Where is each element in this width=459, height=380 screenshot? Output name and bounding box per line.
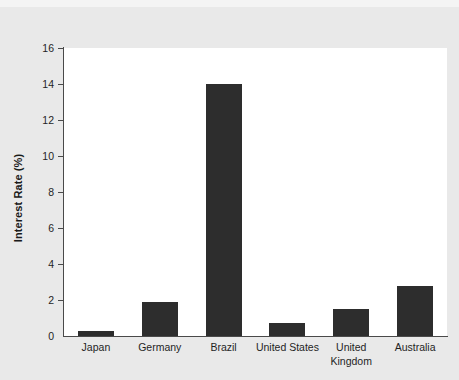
bar: [78, 331, 114, 336]
bar: [142, 302, 178, 336]
y-axis-tick: [58, 264, 64, 265]
x-axis-tick-label: Germany: [128, 341, 192, 355]
y-axis-tick-label: 8: [4, 186, 54, 198]
y-axis-title: Interest Rate (%): [12, 128, 24, 268]
scan-artifact-band: [0, 0, 459, 7]
bar: [333, 309, 369, 336]
bars-layer: [64, 48, 447, 336]
x-axis-line: [63, 336, 448, 337]
y-axis-tick-label: 14: [4, 78, 54, 90]
y-axis-tick-label: 12: [4, 114, 54, 126]
x-axis-tick-labels: JapanGermanyBrazilUnited StatesUnited Ki…: [64, 341, 447, 379]
y-axis-tick-label: 6: [4, 222, 54, 234]
y-axis-tick: [58, 120, 64, 121]
y-axis-tick: [58, 84, 64, 85]
x-axis-tick-label: Brazil: [192, 341, 256, 355]
y-axis-tick: [58, 156, 64, 157]
bar-chart-figure: Interest Rate (%) 0246810121416 JapanGer…: [0, 0, 459, 380]
bar: [397, 286, 433, 336]
y-axis-tick-label: 16: [4, 42, 54, 54]
y-axis-tick-label: 2: [4, 294, 54, 306]
x-axis-tick-label: Australia: [383, 341, 447, 355]
bar: [269, 323, 305, 336]
y-axis-tick-label: 0: [4, 330, 54, 342]
y-axis-tick: [58, 192, 64, 193]
y-axis-tick-label: 10: [4, 150, 54, 162]
y-axis-tick: [58, 48, 64, 49]
x-axis-tick-label: Japan: [64, 341, 128, 355]
y-axis-tick: [58, 300, 64, 301]
bar: [206, 84, 242, 336]
x-axis-tick-label: United States: [256, 341, 320, 355]
y-axis-tick-label: 4: [4, 258, 54, 270]
y-axis-tick: [58, 228, 64, 229]
x-axis-tick-label: United Kingdom: [319, 341, 383, 368]
